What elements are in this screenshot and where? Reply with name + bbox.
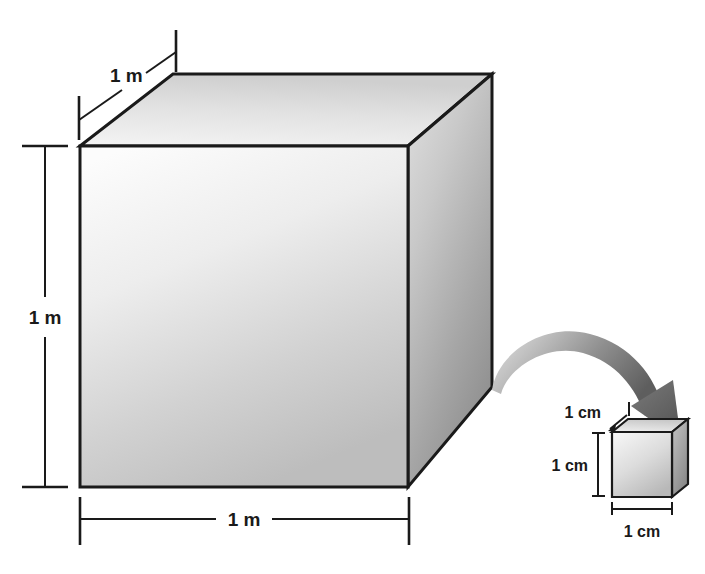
large-cube-width-label: 1 m xyxy=(228,509,261,530)
large-cube-width-dimension: 1 m xyxy=(80,497,409,545)
small-cube-depth-label: 1 cm xyxy=(565,404,601,421)
small-cube xyxy=(612,419,688,497)
large-cube-height-label: 1 m xyxy=(29,307,62,328)
large-cube-depth-label: 1 m xyxy=(110,65,143,86)
depth-dim-leader-upper xyxy=(146,52,176,73)
small-cube-right-face xyxy=(672,419,688,497)
depth-dim-leader-lower xyxy=(79,90,122,120)
large-cube-right-face xyxy=(408,74,492,487)
small-cube-front-face xyxy=(612,432,672,497)
large-cube-height-dimension: 1 m xyxy=(22,146,68,487)
small-cube-width-label: 1 cm xyxy=(624,523,660,540)
small-cube-height-dimension: 1 cm xyxy=(552,433,605,496)
cube-scale-figure: 1 m 1 m 1 m xyxy=(0,0,705,574)
large-cube-front-face xyxy=(80,146,408,487)
figure-canvas: 1 m 1 m 1 m xyxy=(0,0,705,574)
small-depth-arrow-barb xyxy=(608,424,616,432)
small-cube-width-dimension: 1 cm xyxy=(612,502,672,540)
small-cube-height-label: 1 cm xyxy=(552,457,588,474)
large-cube xyxy=(80,74,492,487)
